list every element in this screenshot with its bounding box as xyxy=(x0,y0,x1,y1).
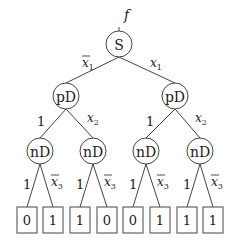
node-nd-1: nD xyxy=(80,138,106,164)
edge-root-right xyxy=(119,57,175,83)
edge-label-x3-bar: x3 xyxy=(51,175,63,191)
edge-label-x1-bar: x1 xyxy=(82,56,94,72)
node-label: nD xyxy=(30,144,50,160)
edge-label-x3-bar: x3 xyxy=(211,175,223,191)
node-nd-0: nD xyxy=(27,138,53,164)
edge-label-x3-bar: x3 xyxy=(157,175,169,191)
leaf-4: 0 xyxy=(123,207,143,233)
leaf-value: 1 xyxy=(76,213,84,228)
edge-label-x1: x1 xyxy=(150,56,162,72)
node-label: nD xyxy=(136,144,156,160)
svg-text:x3: x3 xyxy=(104,175,116,191)
svg-text:x3: x3 xyxy=(157,175,169,191)
svg-text:x1: x1 xyxy=(82,56,94,72)
edge-label-one: 1 xyxy=(146,114,154,129)
leaf-3: 0 xyxy=(97,207,117,233)
edge-label-x2: x2 xyxy=(87,111,99,127)
edge-label-one: 1 xyxy=(37,114,45,129)
svg-text:x1: x1 xyxy=(150,56,162,72)
node-label: pD xyxy=(165,89,185,105)
output-label: f xyxy=(123,7,132,23)
leaf-value: 1 xyxy=(183,213,191,228)
leaf-1: 1 xyxy=(43,207,63,233)
leaf-value: 0 xyxy=(129,213,137,228)
node-label: S xyxy=(114,37,124,53)
node-label: nD xyxy=(190,144,210,160)
leaf-2: 1 xyxy=(70,207,90,233)
node-pd-right: pD xyxy=(162,83,188,109)
svg-text:x3: x3 xyxy=(211,175,223,191)
node-pd-left: pD xyxy=(53,83,79,109)
leaf-value: 1 xyxy=(49,213,57,228)
decision-tree-diagram: f S pD pD nD nD nD nD xyxy=(0,0,236,246)
edge-label-one: 1 xyxy=(183,177,191,192)
leaf-value: 0 xyxy=(103,213,111,228)
node-root: S xyxy=(106,31,132,57)
edge-label-one: 1 xyxy=(23,177,31,192)
leaf-5: 1 xyxy=(150,207,170,233)
node-label: pD xyxy=(56,89,76,105)
leaf-value: 1 xyxy=(209,213,217,228)
svg-text:x2: x2 xyxy=(87,111,99,127)
edge-label-one: 1 xyxy=(76,177,84,192)
leaf-0: 0 xyxy=(17,207,37,233)
node-nd-3: nD xyxy=(187,138,213,164)
svg-text:x3: x3 xyxy=(51,175,63,191)
leaf-value: 0 xyxy=(23,213,31,228)
svg-text:x2: x2 xyxy=(195,111,207,127)
output-f: f xyxy=(119,7,132,31)
leaf-value: 1 xyxy=(156,213,164,228)
leaf-6: 1 xyxy=(177,207,197,233)
node-nd-2: nD xyxy=(133,138,159,164)
node-label: nD xyxy=(83,144,103,160)
leaf-7: 1 xyxy=(203,207,223,233)
edge-label-one: 1 xyxy=(129,177,137,192)
edge-label-x3-bar: x3 xyxy=(104,175,116,191)
edge-label-x2: x2 xyxy=(195,111,207,127)
